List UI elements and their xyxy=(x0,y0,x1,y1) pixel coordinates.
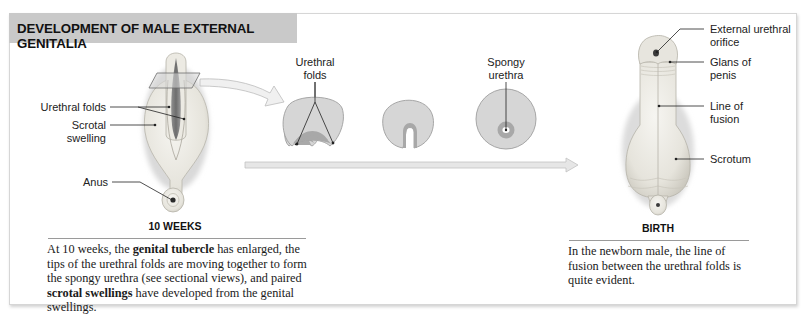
label-scrotal-swelling-2: swelling xyxy=(20,132,106,145)
caption-divider-10-weeks xyxy=(48,238,306,239)
stage-label-birth: BIRTH xyxy=(608,222,708,234)
term-genital-tubercle: genital tubercle xyxy=(133,242,214,256)
label-section-urethral-folds-2: folds xyxy=(285,69,345,82)
ten-weeks-illustration xyxy=(143,53,284,212)
progression-arrow xyxy=(245,158,578,172)
birth-illustration xyxy=(622,36,694,216)
label-glans-1: Glans of xyxy=(710,56,751,69)
caption-birth: In the newborn male, the line of fusion … xyxy=(568,244,753,288)
sectional-view-2 xyxy=(383,100,434,148)
label-external-urethral-orifice-2: orifice xyxy=(710,36,739,49)
stage-label-10-weeks: 10 WEEKS xyxy=(125,220,225,232)
label-urethral-folds: Urethral folds xyxy=(20,101,106,114)
label-line-of-fusion-1: Line of xyxy=(710,100,743,113)
caption-10-weeks: At 10 weeks, the genital tubercle has en… xyxy=(47,242,312,315)
term-scrotal-swellings: scrotal swellings xyxy=(47,286,133,300)
caption-divider-birth xyxy=(569,240,749,241)
label-glans-2: penis xyxy=(710,69,736,82)
label-anus: Anus xyxy=(20,176,108,189)
label-line-of-fusion-2: fusion xyxy=(710,113,739,126)
label-spongy-urethra-1: Spongy xyxy=(476,56,536,69)
label-external-urethral-orifice-1: External urethral xyxy=(710,23,791,36)
label-spongy-urethra-2: urethra xyxy=(476,69,536,82)
label-scrotal-swelling-1: Scrotal xyxy=(20,119,106,132)
sectional-view-1-shape xyxy=(283,97,343,146)
label-scrotum: Scrotum xyxy=(710,153,751,166)
label-section-urethral-folds-1: Urethral xyxy=(285,56,345,69)
